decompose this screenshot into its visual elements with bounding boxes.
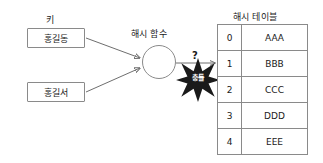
table-row: 3 DDD (218, 103, 308, 129)
key-label-second: 홍길서 (44, 86, 68, 99)
table-cell-index: 0 (218, 25, 242, 51)
table-cell-value: EEE (242, 129, 308, 155)
hash-function-label: 해시 함수 (131, 27, 167, 40)
hash-collision-diagram: 키 홍길동 홍길서 해시 함수 ? 충돌 해시 테이블 0 AAA 1 BBB … (0, 0, 323, 163)
hash-table-title: 해시 테이블 (233, 10, 277, 23)
keys-group-label: 키 (46, 13, 54, 26)
table-cell-index: 4 (218, 129, 242, 155)
key-label-first: 홍길동 (44, 32, 68, 45)
table-cell-value: AAA (242, 25, 308, 51)
table-cell-value: BBB (242, 51, 308, 77)
table-row: 1 BBB (218, 51, 308, 77)
hash-function-circle-icon (142, 45, 176, 79)
arrow-key2-to-hash (86, 68, 140, 92)
table-cell-value: CCC (242, 77, 308, 103)
key-box-second: 홍길서 (27, 82, 85, 102)
collision-label: 충돌 (176, 72, 220, 82)
table-cell-index: 2 (218, 77, 242, 103)
table-row: 2 CCC (218, 77, 308, 103)
table-cell-index: 3 (218, 103, 242, 129)
table-cell-value: DDD (242, 103, 308, 129)
arrow-key1-to-hash (86, 38, 140, 58)
table-row: 4 EEE (218, 129, 308, 155)
key-box-first: 홍길동 (27, 28, 85, 48)
table-row: 0 AAA (218, 25, 308, 51)
table-cell-index: 1 (218, 51, 242, 77)
hash-table: 0 AAA 1 BBB 2 CCC 3 DDD 4 EEE (217, 24, 308, 155)
